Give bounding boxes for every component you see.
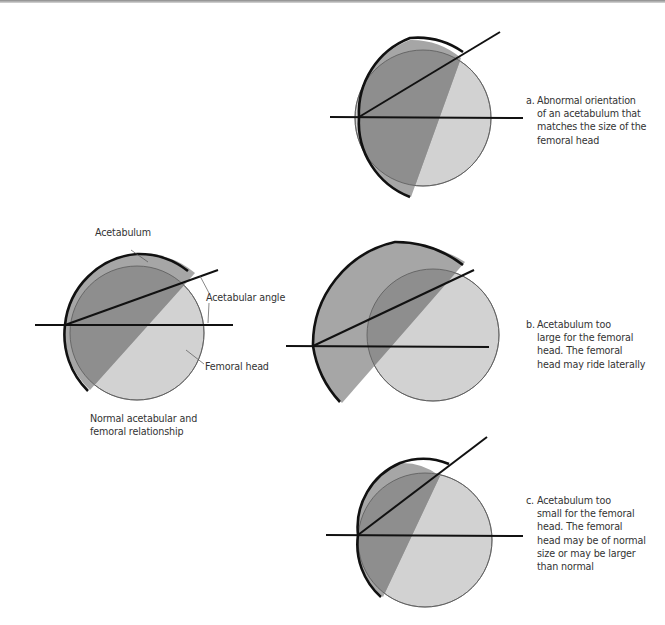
caption-marker: b. <box>526 318 537 371</box>
caption-text: Acetabulum too large for the femoral hea… <box>537 318 645 371</box>
label-femoral-head: Femoral head <box>205 361 269 372</box>
leader-angle-top <box>200 276 209 293</box>
label-acetabular-angle: Acetabular angle <box>206 292 285 303</box>
caption-marker: c. <box>526 494 537 573</box>
caption-text: Acetabulum too small for the femoral hea… <box>537 494 646 573</box>
normal-hip-diagram <box>35 250 233 400</box>
panel-c-diagram <box>326 437 523 607</box>
horizontal-line <box>286 346 489 347</box>
caption-marker: a. <box>526 94 537 147</box>
label-acetabulum: Acetabulum <box>95 227 151 238</box>
leader-angle-bottom <box>208 303 209 323</box>
panel-b-diagram <box>286 242 499 403</box>
caption-panel-c: c. Acetabulum too small for the femoral … <box>526 494 646 573</box>
horizontal-line <box>326 535 523 536</box>
caption-normal: Normal acetabular and femoral relationsh… <box>90 412 197 438</box>
horizontal-line <box>330 117 523 118</box>
caption-text: Abnormal orientation of an acetabulum th… <box>537 94 646 147</box>
panel-a-diagram <box>330 32 523 197</box>
caption-panel-a: a. Abnormal orientation of an acetabulum… <box>526 94 646 147</box>
caption-panel-b: b. Acetabulum too large for the femoral … <box>526 318 645 371</box>
